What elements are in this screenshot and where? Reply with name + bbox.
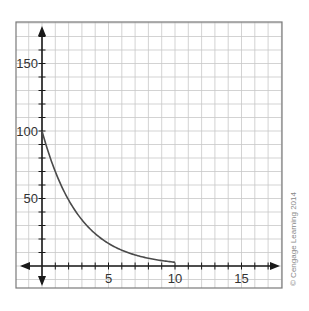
- x-axis-right-arrow-icon: [270, 262, 280, 270]
- exponential-decay-chart: 5101550100150 © Cengage Learning 2014: [0, 0, 309, 311]
- y-tick-label: 100: [16, 124, 38, 139]
- y-axis-down-arrow-icon: [38, 276, 46, 286]
- x-tick-label: 5: [105, 271, 112, 286]
- copyright-credit: © Cengage Learning 2014: [289, 191, 298, 286]
- grid-lines: [16, 22, 282, 288]
- y-axis-up-arrow-icon: [38, 26, 46, 36]
- x-tick-label: 10: [168, 271, 182, 286]
- x-axis-left-arrow-icon: [20, 262, 30, 270]
- axis-ticks: [39, 37, 269, 270]
- x-tick-label: 15: [234, 271, 248, 286]
- y-tick-label: 50: [24, 191, 38, 206]
- y-tick-label: 150: [16, 56, 38, 71]
- axes: [20, 26, 280, 286]
- plot-frame: [16, 22, 282, 288]
